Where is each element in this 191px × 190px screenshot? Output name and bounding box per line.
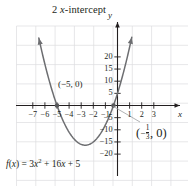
title-suffix: -intercept: [65, 4, 106, 15]
y-tick-label: 10: [92, 77, 113, 85]
equation-middle: + 16: [42, 159, 62, 169]
y-tick-label: 5: [92, 89, 113, 97]
annotation-intercept-right: (−13, 0): [136, 124, 167, 141]
y-tick-label: −10: [92, 126, 113, 134]
y-axis-label: y: [108, 11, 112, 20]
graph-figure: 2 x-intercept x y −7−6−5−4−3−2−1123 2015…: [0, 0, 191, 190]
x-intercept-dot-left: [55, 103, 60, 108]
equation-constant: + 5: [65, 159, 80, 169]
x-axis-label: x: [178, 110, 182, 119]
function-equation: f(x) = 3x2 + 16x + 5: [6, 158, 80, 170]
y-tick-label: −15: [92, 138, 113, 146]
y-tick-label: −20: [92, 150, 113, 158]
title-prefix: 2: [52, 4, 60, 15]
y-tick-label: 15: [92, 65, 113, 73]
x-axis: [16, 103, 180, 108]
x-axis-arrow: [175, 103, 181, 108]
fraction-denominator: 3: [146, 132, 150, 141]
annot-paren-close: , 0): [150, 126, 167, 140]
equation-equals: = 3: [19, 159, 34, 169]
x-tick-label: 3: [145, 111, 163, 119]
annot-minus: −: [140, 128, 145, 138]
annot-fraction: 13: [146, 124, 150, 141]
fraction-numerator: 1: [146, 124, 150, 132]
annotation-intercept-left: (−5, 0): [58, 80, 83, 89]
y-tick-label: 20: [92, 53, 113, 61]
page-title: 2 x-intercept: [52, 5, 106, 16]
y-axis-arrow: [115, 22, 120, 28]
y-tick-label: −5: [92, 114, 113, 122]
